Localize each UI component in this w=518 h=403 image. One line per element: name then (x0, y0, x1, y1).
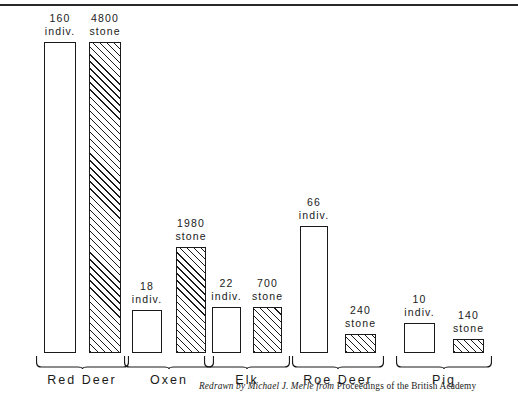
bar (212, 307, 241, 353)
bar-value-label: 18indiv. (107, 280, 187, 306)
bar-value-number: 66 (274, 196, 354, 209)
bar-value-unit: indiv. (274, 209, 354, 222)
bar-value-unit: stone (429, 322, 509, 335)
bar (300, 226, 328, 353)
bar-value-number: 140 (429, 309, 509, 322)
bar-value-label: 1980stone (151, 217, 231, 243)
bar-value-unit: indiv. (107, 293, 187, 306)
group-brace (396, 356, 492, 369)
group-brace (36, 356, 129, 369)
bar-value-unit: stone (65, 25, 145, 38)
figure-credit: Redrawn by Michael J. Merle from Proceed… (199, 381, 476, 391)
bar-value-unit: stone (228, 290, 308, 303)
bar-value-number: 18 (107, 280, 187, 293)
group-brace (292, 356, 384, 369)
bar (345, 334, 376, 353)
bar-value-label: 700stone (228, 277, 308, 303)
bar-value-label: 140stone (429, 309, 509, 335)
credit-roman-part: Proceedings of the British Academy (337, 381, 476, 391)
bar-value-number: 700 (228, 277, 308, 290)
bar-value-label: 4800stone (65, 12, 145, 38)
chart-plot-area: 160indiv.4800stone18indiv.1980stone22ind… (0, 0, 518, 403)
bar-value-number: 4800 (65, 12, 145, 25)
bar (89, 42, 121, 353)
bar (132, 310, 162, 353)
bar-value-label: 66indiv. (274, 196, 354, 222)
group-brace (204, 356, 290, 369)
bar-value-number: 1980 (151, 217, 231, 230)
bar-value-unit: stone (151, 230, 231, 243)
figure-container: 160indiv.4800stone18indiv.1980stone22ind… (0, 0, 518, 403)
bar-value-number: 10 (380, 293, 460, 306)
credit-italic-part: Redrawn by Michael J. Merle from (199, 381, 334, 391)
bar (44, 42, 76, 353)
group-brace (124, 356, 214, 369)
bar (253, 307, 282, 353)
bar (453, 339, 484, 353)
